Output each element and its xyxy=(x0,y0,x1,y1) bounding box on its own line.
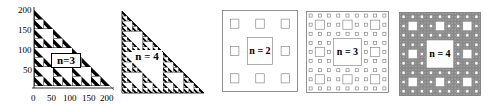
label-n2-carpet: n = 2 xyxy=(248,45,272,57)
panel-carpet-n4: n = 4 xyxy=(399,12,481,96)
y-tick-100: 100 xyxy=(18,45,32,55)
panel-carpet-n2: n = 2 xyxy=(222,10,298,92)
label-n4-carpet: n = 4 xyxy=(427,48,453,60)
x-tick-50: 50 xyxy=(47,93,56,103)
panel-triangle-n4: n = 4 xyxy=(120,0,212,104)
y-tick-50: 50 xyxy=(23,65,32,75)
y-tick-150: 150 xyxy=(18,25,32,35)
x-tick-0: 0 xyxy=(31,93,36,103)
label-n4-triangle: n = 4 xyxy=(132,50,162,63)
panel-triangle-n3: n=3 0 50 100 150 200 200 150 100 50 xyxy=(0,0,115,104)
label-n3-carpet: n = 3 xyxy=(334,46,361,58)
label-n3: n=3 xyxy=(51,53,81,68)
x-tick-200: 200 xyxy=(100,93,114,103)
x-tick-100: 100 xyxy=(63,93,77,103)
y-tick-200: 200 xyxy=(18,5,32,15)
panel-carpet-n3: n = 3 xyxy=(306,11,389,93)
x-tick-150: 150 xyxy=(82,93,96,103)
